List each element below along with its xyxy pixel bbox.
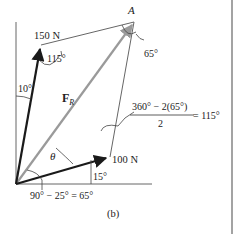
angle-arc-10 [16,96,31,99]
angle-65-leader [136,34,144,40]
force-150-label: 150 N [34,30,60,41]
angle-arc-theta [56,148,73,164]
diagram-canvas: A 150 N 100 N 115° 10° 65° 15° θ FR 360°… [0,0,234,234]
resultant-label: FR [62,91,74,107]
point-a-label: A [127,4,135,16]
angle-10-label: 10° [18,83,32,94]
theta-label: θ [50,150,56,162]
figure-caption: (b) [107,208,120,220]
equation-numerator: 360° − 2(65°) [132,101,187,113]
equation-result: = 115° [193,110,220,121]
force-100-label: 100 N [112,154,138,165]
equation-lower: 90° − 25° = 65° [30,190,93,201]
force-diagram: A 150 N 100 N 115° 10° 65° 15° θ FR 360°… [0,0,234,234]
angle-65-label: 65° [144,48,158,59]
angle-15-label: 15° [93,171,107,182]
equation-denominator: 2 [158,118,163,129]
force-150-arrow [16,49,40,184]
parallelogram-right-side [110,22,134,157]
angle-115-lower-leader [118,112,134,126]
angle-115-label: 115° [47,53,66,64]
